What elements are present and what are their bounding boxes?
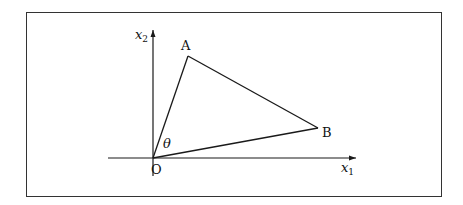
point-b-label: B <box>322 125 332 140</box>
diagram-canvas: A B O θ x2 x1 <box>0 0 463 205</box>
segment-OB <box>153 128 318 158</box>
point-a-label: A <box>180 38 191 53</box>
origin-label: O <box>151 162 162 177</box>
y-axis-label: x2 <box>135 27 148 44</box>
segment-AB <box>188 56 318 128</box>
x-axis-label: x1 <box>341 160 354 177</box>
angle-theta-label: θ <box>163 136 171 151</box>
